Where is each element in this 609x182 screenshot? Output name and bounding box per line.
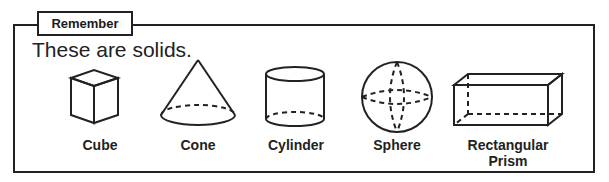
remember-tag: Remember xyxy=(37,11,133,36)
rectangular-prism-icon xyxy=(451,70,565,130)
cone-icon xyxy=(158,58,238,130)
cylinder-label: Cylinder xyxy=(255,137,337,153)
sphere-icon xyxy=(359,59,435,135)
rectangular-prism-label: Rectangular Prism xyxy=(460,137,556,169)
sphere-label: Sphere xyxy=(362,137,432,153)
cube-icon xyxy=(68,68,128,128)
cone-label: Cone xyxy=(168,137,228,153)
cylinder-icon xyxy=(262,64,328,134)
cube-label: Cube xyxy=(70,137,130,153)
